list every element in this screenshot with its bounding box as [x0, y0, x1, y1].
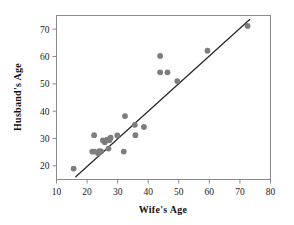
data-point	[98, 148, 104, 154]
data-point	[108, 135, 114, 141]
y-tick-label: 70	[40, 25, 50, 35]
scatter-plot-figure: 203040506070 1020304050607080 Wife's Age…	[0, 0, 294, 225]
data-point	[205, 48, 211, 54]
x-tick-label: 10	[52, 187, 62, 197]
data-point	[157, 69, 163, 75]
y-axis-ticks: 203040506070	[40, 25, 57, 172]
y-axis-title: Husband's Age	[12, 63, 23, 131]
data-point	[114, 133, 120, 139]
data-point	[132, 122, 138, 128]
data-point	[122, 113, 128, 119]
data-point	[106, 146, 112, 152]
x-tick-label: 80	[266, 187, 276, 197]
y-tick-label: 40	[40, 107, 50, 117]
data-point	[91, 132, 97, 138]
data-point	[157, 53, 163, 59]
data-point	[245, 23, 251, 29]
data-point	[174, 78, 180, 84]
x-axis-ticks: 1020304050607080	[52, 180, 276, 197]
y-tick-label: 30	[40, 134, 50, 144]
x-tick-label: 60	[205, 187, 215, 197]
x-tick-label: 50	[174, 187, 184, 197]
data-point	[165, 69, 171, 75]
y-tick-label: 60	[40, 52, 50, 62]
x-tick-label: 70	[235, 187, 245, 197]
data-point	[141, 124, 147, 130]
x-tick-label: 30	[113, 187, 123, 197]
data-point	[132, 132, 138, 138]
x-axis-title: Wife's Age	[139, 204, 188, 215]
y-tick-label: 20	[40, 161, 50, 171]
plot-svg: 203040506070 1020304050607080 Wife's Age…	[0, 0, 294, 225]
x-tick-label: 40	[143, 187, 153, 197]
data-point	[121, 149, 127, 155]
y-tick-label: 50	[40, 79, 50, 89]
x-tick-label: 20	[82, 187, 92, 197]
data-point	[71, 166, 77, 172]
